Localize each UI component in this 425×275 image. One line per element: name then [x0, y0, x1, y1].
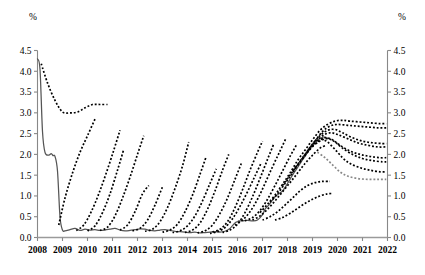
projection-line-projection-2009: [59, 119, 95, 225]
x-tick-label: 2021: [353, 245, 372, 255]
y-tick-label-right: 4.5: [394, 46, 406, 56]
y-tick-label-left: 4.5: [20, 46, 32, 56]
x-tick-label: 2013: [153, 245, 172, 255]
y-tick-label-right: 0.5: [394, 212, 406, 222]
x-tick-label: 2022: [378, 245, 397, 255]
y-tick-label-left: 1.5: [20, 171, 32, 181]
x-tick-label: 2009: [53, 245, 72, 255]
x-tick-label: 2019: [303, 245, 322, 255]
x-tick-label: 2008: [28, 245, 47, 255]
x-tick-label: 2020: [328, 245, 347, 255]
y-tick-label-left: 3.5: [20, 87, 32, 97]
projection-line-projection-2010a: [76, 130, 120, 230]
chart-container: % % 0.00.00.50.51.01.01.51.52.02.02.52.5…: [0, 0, 425, 275]
y-tick-label-right: 3.5: [394, 87, 406, 97]
series-layer: [38, 59, 387, 234]
x-tick-label: 2018: [278, 245, 297, 255]
y-tick-label-right: 3.0: [394, 108, 406, 118]
y-tick-label-right: 2.0: [394, 150, 406, 160]
x-tick-label: 2012: [128, 245, 147, 255]
y-tick-label-left: 0.0: [20, 233, 32, 243]
x-tick-label: 2014: [178, 245, 197, 255]
projection-line-projection-2008: [41, 64, 107, 113]
y-tick-label-right: 4.0: [394, 67, 406, 77]
axes: [34, 51, 391, 242]
y-tick-label-left: 3.0: [20, 108, 32, 118]
projection-line-projection-2013: [163, 156, 207, 232]
y-tick-label-left: 2.5: [20, 129, 32, 139]
x-tick-label: 2016: [228, 245, 247, 255]
y-tick-label-left: 2.0: [20, 150, 32, 160]
projection-line-projection-2015a: [213, 141, 263, 232]
x-tick-label: 2017: [253, 245, 272, 255]
y-tick-label-left: 0.5: [20, 212, 32, 222]
projection-line-projection-2015b: [223, 144, 274, 233]
projection-line-projection-2017b: [270, 124, 386, 202]
y-tick-label-right: 1.0: [394, 191, 406, 201]
y-tick-label-right: 0.0: [394, 233, 406, 243]
y-tick-label-left: 1.0: [20, 191, 32, 201]
x-tick-label: 2010: [78, 245, 97, 255]
y-tick-label-left: 4.0: [20, 67, 32, 77]
actual-rate-line: [38, 59, 329, 233]
projection-line-projection-short-2017c: [275, 193, 333, 220]
projection-line-projection-2017a: [260, 120, 386, 212]
projection-line-projection-2016b: [245, 145, 296, 221]
y-tick-label-right: 1.5: [394, 171, 406, 181]
projection-line-projection-2012b: [145, 142, 189, 231]
policy-rate-projection-chart: 0.00.00.50.51.01.01.51.52.02.02.52.53.03…: [0, 0, 425, 275]
projection-line-projection-2010b: [88, 149, 124, 230]
x-tick-label: 2015: [203, 245, 222, 255]
projection-line-projection-2011a: [100, 136, 144, 231]
x-tick-label: 2011: [103, 245, 122, 255]
y-tick-label-right: 2.5: [394, 129, 406, 139]
projection-line-projection-2019d: [318, 152, 387, 179]
